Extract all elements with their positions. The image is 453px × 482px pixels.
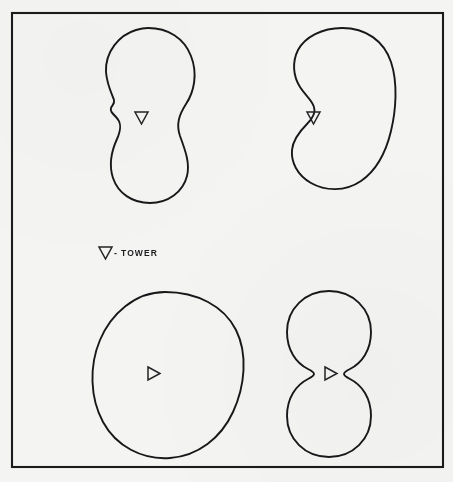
figure-background [0, 0, 453, 482]
legend-label: TOWER [121, 248, 158, 258]
antenna-pattern-figure: - TOWER [0, 0, 453, 482]
legend-separator: - [114, 248, 117, 258]
diagram-canvas: - TOWER [0, 0, 453, 482]
